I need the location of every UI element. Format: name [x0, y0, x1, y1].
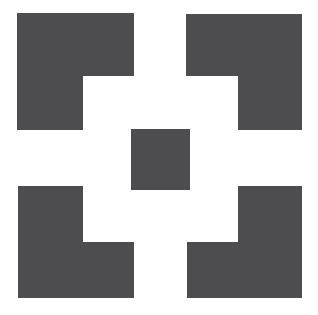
- logo-canvas: Pinwheel Square Logo Mark Four dark gray…: [0, 0, 318, 315]
- shape-center-square: [131, 129, 190, 190]
- logo-graphic: [0, 0, 318, 315]
